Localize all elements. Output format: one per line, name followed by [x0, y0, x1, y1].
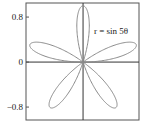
polar-rose-chart: 0.80−0.8 r = sin 5θ: [0, 0, 148, 127]
equation-annotation: r = sin 5θ: [94, 26, 128, 36]
y-tick-label: 0.8: [12, 12, 24, 22]
y-tick-label: 0: [19, 57, 24, 67]
y-tick-label: −0.8: [7, 102, 24, 112]
